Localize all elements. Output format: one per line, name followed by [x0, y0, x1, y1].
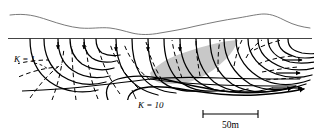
scale-bar-label: 50m: [222, 120, 240, 130]
flow-net-figure: K = 1 K = 10 50m: [0, 0, 319, 134]
k-low-label: K = 1: [13, 54, 35, 64]
flow-net-svg: K = 1 K = 10 50m: [0, 0, 319, 134]
k-high-label: K = 10: [137, 100, 164, 110]
